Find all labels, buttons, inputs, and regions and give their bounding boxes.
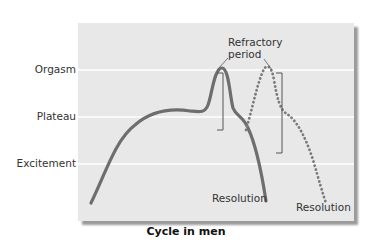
y-label-excitement: Excitement bbox=[0, 157, 76, 169]
refractory-label-line2: period bbox=[228, 48, 261, 60]
refractory-bracket-right bbox=[276, 73, 282, 153]
y-label-orgasm: Orgasm bbox=[0, 63, 76, 75]
diagram-caption: Cycle in men bbox=[0, 225, 372, 238]
resolution-label-solid: Resolution bbox=[212, 192, 267, 204]
y-label-plateau: Plateau bbox=[0, 110, 76, 122]
dotted-response-curve bbox=[246, 66, 326, 203]
refractory-label-line1: Refractory bbox=[228, 36, 283, 48]
solid-response-curve bbox=[91, 68, 266, 203]
refractory-bracket-left bbox=[217, 73, 223, 130]
resolution-label-dotted: Resolution bbox=[296, 201, 351, 213]
